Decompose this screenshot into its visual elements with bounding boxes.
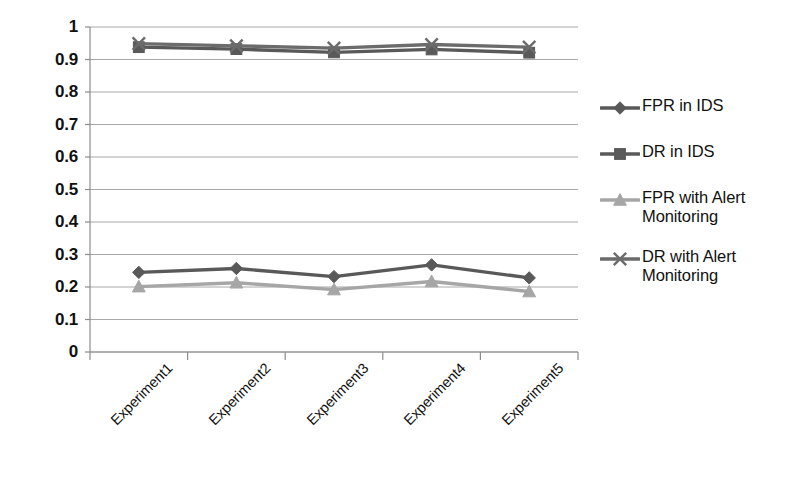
y-axis-tick-label: 0 — [16, 343, 78, 360]
legend-label: DR in IDS — [642, 142, 714, 161]
legend-key-square-icon — [600, 143, 640, 165]
series-fpr-in-ids — [133, 259, 536, 284]
square-marker — [524, 47, 535, 58]
diamond-marker — [230, 262, 242, 274]
legend-item[interactable]: FPR with Alert Monitoring — [600, 188, 798, 227]
y-axis-tick-label: 0.1 — [16, 311, 78, 328]
y-axis-tick-label: 0.3 — [16, 246, 78, 263]
chart-legend: FPR in IDSDR in IDSFPR with Alert Monito… — [600, 96, 798, 306]
square-marker — [615, 149, 626, 160]
diamond-marker — [328, 270, 340, 282]
y-axis-tick-label: 0.8 — [16, 83, 78, 100]
legend-item[interactable]: DR with Alert Monitoring — [600, 247, 798, 286]
line-chart: 10.90.80.70.60.50.40.30.20.10 Experiment… — [0, 0, 798, 491]
y-axis-tick-label: 0.9 — [16, 51, 78, 68]
diamond-marker — [523, 272, 535, 284]
gridlines — [90, 27, 578, 352]
y-axis-tick-label: 1 — [16, 18, 78, 35]
legend-label: DR with Alert Monitoring — [642, 247, 798, 286]
y-axis-tick-label: 0.2 — [16, 278, 78, 295]
legend-label: FPR in IDS — [642, 96, 724, 115]
y-axis-tick-label: 0.6 — [16, 148, 78, 165]
y-axis-tick-label: 0.5 — [16, 181, 78, 198]
diamond-marker — [425, 259, 437, 271]
legend-key-triangle-icon — [600, 189, 640, 211]
legend-label: FPR with Alert Monitoring — [642, 188, 798, 227]
diamond-marker — [133, 266, 145, 278]
diamond-marker — [614, 102, 626, 114]
y-axis-tick-label: 0.7 — [16, 116, 78, 133]
legend-key-x-icon — [600, 248, 640, 270]
legend-key-diamond-icon — [600, 97, 640, 119]
axes — [85, 27, 578, 360]
legend-item[interactable]: FPR in IDS — [600, 96, 798, 122]
y-axis-tick-label: 0.4 — [16, 213, 78, 230]
legend-item[interactable]: DR in IDS — [600, 142, 798, 168]
